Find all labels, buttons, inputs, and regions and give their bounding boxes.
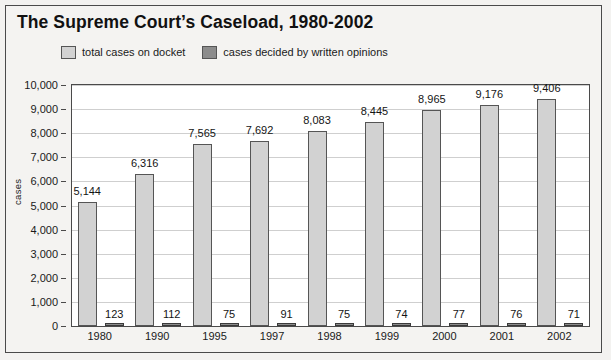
y-axis-tick-label: 3,000	[30, 248, 58, 260]
bar-value-label: 5,144	[73, 185, 101, 197]
bar-cases-decided	[105, 323, 124, 326]
legend-item-label: cases decided by written opinions	[223, 47, 387, 58]
x-axis-tick-label: 1995	[202, 330, 226, 342]
bar-cases-decided	[220, 323, 239, 326]
bar-cases-decided	[449, 323, 468, 326]
x-axis-tick-label: 1998	[317, 330, 341, 342]
y-axis-tick-mark	[61, 181, 66, 182]
bar-value-label: 91	[280, 308, 292, 320]
bar-value-label: 8,083	[303, 114, 331, 126]
y-axis-tick-label: 0	[52, 320, 58, 332]
x-axis: 198019901995199719981999200020012002	[71, 330, 590, 350]
y-axis-tick-label: 9,000	[30, 103, 58, 115]
y-axis-tick-mark	[61, 85, 66, 86]
bar-value-label: 9,176	[476, 88, 504, 100]
y-axis-tick-label: 1,000	[30, 296, 58, 308]
plot-area: 5,1441236,3161127,565757,692918,083758,4…	[71, 84, 590, 327]
bar-value-label: 123	[105, 308, 123, 320]
legend-item-label: total cases on docket	[82, 47, 185, 58]
y-axis-tick-label: 2,000	[30, 272, 58, 284]
x-axis-tick-label: 2002	[547, 330, 571, 342]
bar-value-label: 8,445	[361, 105, 389, 117]
bar-cases-decided	[392, 323, 411, 326]
gridline	[72, 133, 589, 134]
legend-swatch-icon	[61, 46, 76, 59]
y-axis-tick-mark	[61, 302, 66, 303]
bar-total-cases	[193, 144, 212, 326]
y-axis-tick-label: 5,000	[30, 200, 58, 212]
bar-cases-decided	[162, 323, 181, 326]
bar-total-cases	[480, 105, 499, 326]
x-axis-tick-label: 1980	[87, 330, 111, 342]
bar-value-label: 9,406	[533, 82, 561, 94]
bar-total-cases	[365, 122, 384, 326]
bar-value-label: 112	[163, 308, 181, 320]
gridline	[72, 109, 589, 110]
bar-value-label: 7,565	[188, 127, 216, 139]
bar-total-cases	[537, 99, 556, 326]
y-axis-tick-label: 7,000	[30, 151, 58, 163]
chart-legend: total cases on docketcases decided by wr…	[61, 46, 388, 59]
bar-value-label: 6,316	[131, 157, 159, 169]
bar-cases-decided	[564, 323, 583, 326]
bar-value-label: 74	[395, 308, 407, 320]
x-axis-tick-label: 1997	[260, 330, 284, 342]
gridline	[72, 85, 589, 86]
bar-cases-decided	[335, 323, 354, 326]
bar-value-label: 71	[568, 308, 580, 320]
y-axis-title: cases	[12, 179, 23, 205]
y-axis-tick-mark	[61, 230, 66, 231]
page-title: The Supreme Court’s Caseload, 1980-2002	[17, 12, 373, 33]
y-axis-tick-mark	[61, 133, 66, 134]
y-axis-tick-mark	[61, 206, 66, 207]
bar-total-cases	[78, 202, 97, 326]
figure: The Supreme Court’s Caseload, 1980-2002 …	[0, 0, 611, 360]
x-axis-tick-label: 1990	[145, 330, 169, 342]
y-axis-tick-mark	[61, 326, 66, 327]
y-axis-tick-mark	[61, 157, 66, 158]
y-axis-tick-mark	[61, 109, 66, 110]
y-axis-tick-label: 8,000	[30, 127, 58, 139]
bar-total-cases	[135, 174, 154, 326]
legend-item: total cases on docket	[61, 46, 185, 59]
bar-value-label: 75	[338, 308, 350, 320]
bar-value-label: 77	[453, 308, 465, 320]
y-axis-tick-label: 6,000	[30, 175, 58, 187]
bar-value-label: 75	[223, 308, 235, 320]
y-axis-tick-mark	[61, 278, 66, 279]
legend-swatch-icon	[202, 46, 217, 59]
y-axis-tick-label: 10,000	[24, 79, 58, 91]
bar-total-cases	[250, 141, 269, 326]
y-axis-tick-label: 4,000	[30, 224, 58, 236]
bar-total-cases	[422, 110, 441, 326]
x-axis-tick-label: 2000	[432, 330, 456, 342]
y-axis-tick-mark	[61, 254, 66, 255]
x-axis-tick-label: 2001	[490, 330, 514, 342]
y-axis: 10,0009,0008,0007,0006,0005,0004,0003,00…	[0, 84, 66, 327]
bar-cases-decided	[277, 323, 296, 326]
bar-value-label: 7,692	[246, 124, 274, 136]
plot-inner: 5,1441236,3161127,565757,692918,083758,4…	[72, 85, 589, 326]
legend-item: cases decided by written opinions	[202, 46, 387, 59]
x-axis-tick-label: 1999	[375, 330, 399, 342]
bar-total-cases	[308, 131, 327, 326]
bar-value-label: 76	[510, 308, 522, 320]
bar-value-label: 8,965	[418, 93, 446, 105]
bar-cases-decided	[507, 323, 526, 326]
